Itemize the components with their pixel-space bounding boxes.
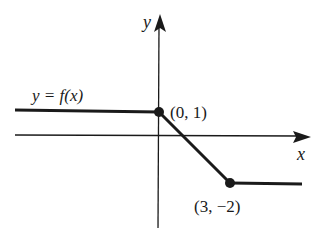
y-axis	[154, 14, 166, 228]
left-horizontal-segment	[15, 110, 159, 112]
sloped-segment	[159, 112, 230, 183]
point-3-neg2	[225, 178, 235, 188]
right-horizontal-segment	[230, 183, 302, 184]
y-axis-arrow-icon	[154, 14, 166, 32]
function-label: y = f(x)	[30, 86, 83, 105]
function-graph: y x y = f(x) (0, 1) (3, −2)	[0, 0, 322, 238]
point-label-0-1: (0, 1)	[170, 103, 207, 122]
y-axis-label: y	[141, 12, 151, 32]
x-axis	[15, 131, 311, 143]
x-axis-arrow-icon	[293, 131, 311, 143]
point-0-1	[154, 107, 164, 117]
x-axis-label: x	[296, 144, 305, 164]
point-label-3-neg2: (3, −2)	[194, 197, 240, 216]
